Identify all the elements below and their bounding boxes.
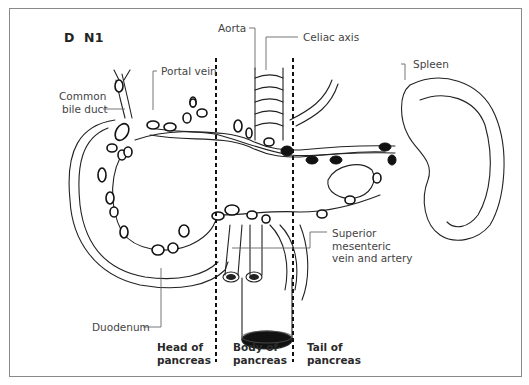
region-head-of-pancreas: Head of pancreas (157, 341, 211, 367)
label-aorta: Aorta (218, 22, 246, 35)
region-tail-of-pancreas: Tail of pancreas (307, 341, 361, 367)
label-superior-mesenteric: Superior mesenteric vein and artery (332, 227, 413, 265)
label-celiac-axis: Celiac axis (303, 31, 359, 44)
label-duodenum: Duodenum (92, 321, 150, 334)
panel-code: N1 (84, 30, 104, 45)
label-portal-vein: Portal vein (161, 65, 217, 78)
region-body-of-pancreas: Body of pancreas (233, 341, 287, 367)
label-common-bile-duct: Common bile duct (59, 90, 108, 115)
panel-title: DN1 (64, 30, 113, 45)
label-spleen: Spleen (413, 58, 449, 71)
panel-letter: D (64, 30, 75, 45)
pancreas-lymph-node-illustration (0, 0, 529, 385)
